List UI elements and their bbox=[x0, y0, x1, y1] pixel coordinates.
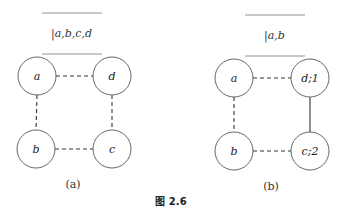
svg-text:b: b bbox=[32, 143, 39, 156]
stack-text: |a,b,c,d bbox=[51, 27, 92, 41]
svg-text:b: b bbox=[230, 145, 237, 158]
panel-a: |a,b,c,d a d b c (a) bbox=[17, 13, 131, 191]
node-a: a bbox=[18, 57, 56, 95]
node-b: b bbox=[17, 130, 55, 168]
panel-b: |a,b a d;1 b c;2 (b) bbox=[215, 15, 329, 193]
svg-text:d: d bbox=[108, 70, 115, 83]
panel-sublabel: (a) bbox=[65, 178, 80, 191]
panel-sublabel: (b) bbox=[263, 180, 279, 193]
edge-a-b bbox=[36, 95, 37, 130]
figure-caption: 图 2.6 bbox=[155, 196, 186, 207]
stack-text: |a,b bbox=[264, 29, 285, 43]
svg-text:d;1: d;1 bbox=[301, 72, 319, 85]
svg-text:c;2: c;2 bbox=[302, 145, 319, 158]
node-d: d;1 bbox=[291, 59, 329, 97]
figure-canvas: |a,b,c,d a d b c (a) |a,b bbox=[0, 0, 345, 213]
node-c: c;2 bbox=[291, 132, 329, 170]
svg-text:a: a bbox=[34, 70, 41, 83]
node-c: c bbox=[93, 130, 131, 168]
svg-text:c: c bbox=[109, 143, 115, 156]
node-d: d bbox=[93, 57, 131, 95]
node-a: a bbox=[215, 59, 253, 97]
svg-text:a: a bbox=[231, 72, 238, 85]
node-b: b bbox=[215, 132, 253, 170]
